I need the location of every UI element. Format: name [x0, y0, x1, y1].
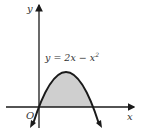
- equation-exponent: 2: [94, 51, 99, 58]
- y-axis-label: y: [26, 3, 33, 14]
- parabola-diagram: y x O y = 2x − x2: [0, 0, 148, 137]
- origin-label: O: [26, 110, 34, 121]
- equation-label: y = 2x − x2: [44, 51, 99, 63]
- x-axis-label: x: [127, 111, 133, 122]
